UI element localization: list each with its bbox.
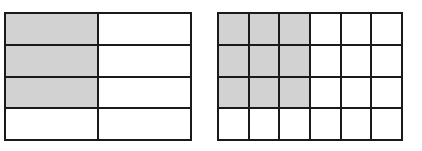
empty-cell [341,13,372,45]
grid-row [5,108,191,140]
shaded-cell [249,45,280,77]
fraction-grid-right [217,12,403,141]
empty-cell [98,45,191,77]
grid-row [218,45,402,77]
empty-cell [279,108,310,140]
empty-cell [371,77,402,109]
shaded-cell [218,77,249,109]
empty-cell [310,108,341,140]
grid-row [218,77,402,109]
empty-cell [98,13,191,45]
shaded-cell [5,77,98,109]
shaded-cell [5,13,98,45]
grid-row [218,108,402,140]
grid-row [5,45,191,77]
shaded-cell [279,45,310,77]
grid-row [5,13,191,45]
fraction-grid-left [4,12,192,141]
shaded-cell [218,13,249,45]
empty-cell [5,108,98,140]
shaded-cell [218,45,249,77]
empty-cell [371,45,402,77]
empty-cell [98,77,191,109]
shaded-cell [249,77,280,109]
grid-row [5,77,191,109]
shaded-cell [279,13,310,45]
empty-cell [371,13,402,45]
shaded-cell [279,77,310,109]
empty-cell [310,45,341,77]
empty-cell [341,108,372,140]
empty-cell [310,77,341,109]
empty-cell [371,108,402,140]
shaded-cell [5,45,98,77]
empty-cell [98,108,191,140]
empty-cell [341,45,372,77]
empty-cell [341,77,372,109]
empty-cell [249,108,280,140]
empty-cell [218,108,249,140]
shaded-cell [249,13,280,45]
grid-row [218,13,402,45]
empty-cell [310,13,341,45]
